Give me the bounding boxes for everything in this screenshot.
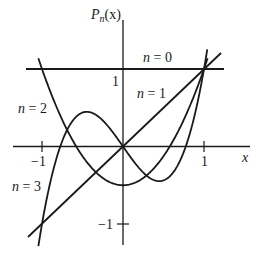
- tick-label-y-1: 1: [112, 74, 119, 89]
- tick-label-x-neg1: −1: [31, 154, 46, 169]
- series-label-n2: n = 2: [18, 101, 47, 116]
- tick-label-x-1: 1: [201, 154, 208, 169]
- x-axis-label: x: [241, 150, 249, 165]
- legendre-plot: Pn(x) x −1 1 1 −1 n = 0 n = 1 n = 2 n = …: [0, 0, 260, 253]
- series-label-n0: n = 0: [143, 50, 172, 65]
- series-label-n3: n = 3: [12, 179, 41, 194]
- series-label-n1: n = 1: [137, 86, 166, 101]
- y-axis-label: Pn(x): [90, 7, 121, 24]
- tick-label-y-neg1: −1: [98, 217, 113, 232]
- curve-n1: [28, 53, 221, 237]
